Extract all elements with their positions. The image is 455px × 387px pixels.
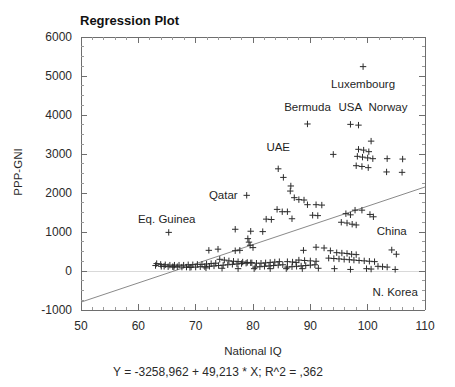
annotation-label: N. Korea: [372, 286, 418, 298]
x-tick-label: 80: [246, 319, 260, 333]
annotation-label: USA: [339, 101, 363, 113]
page-title: Regression Plot: [80, 13, 180, 28]
x-tick-label: 60: [132, 319, 146, 333]
regression-equation: Y = -3258,962 + 49,213 * X; R^2 = ,362: [113, 365, 323, 379]
annotation-label: Bermuda: [284, 101, 331, 113]
y-tick-label: 4000: [45, 108, 72, 122]
y-tick-label: 0: [65, 264, 72, 278]
x-tick-label: 100: [358, 319, 378, 333]
annotation-label: Norway: [369, 101, 408, 113]
y-tick-label: 1000: [45, 225, 72, 239]
x-axis-label: National IQ: [224, 345, 282, 357]
scatter-plot-canvas: Regression Plot 5060708090100110-1000010…: [0, 0, 455, 387]
x-tick-label: 50: [74, 319, 88, 333]
y-tick-label: 3000: [45, 147, 72, 161]
annotation-label: China: [377, 225, 408, 237]
annotation-label: Qatar: [209, 189, 238, 201]
y-tick-label: 5000: [45, 69, 72, 83]
y-axis-label: PPP-GNI: [12, 148, 24, 195]
x-tick-label: 90: [304, 319, 318, 333]
annotation-label: Eq. Guinea: [138, 213, 196, 225]
y-tick-label: 2000: [45, 186, 72, 200]
x-tick-label: 70: [189, 319, 203, 333]
x-tick-label: 110: [415, 319, 434, 333]
annotation-label: UAE: [266, 141, 290, 153]
regression-plot-figure: Regression Plot 5060708090100110-1000010…: [0, 0, 455, 387]
annotation-label: Luxembourg: [331, 78, 395, 90]
y-tick-label: -1000: [41, 303, 72, 317]
y-tick-label: 6000: [45, 30, 72, 44]
